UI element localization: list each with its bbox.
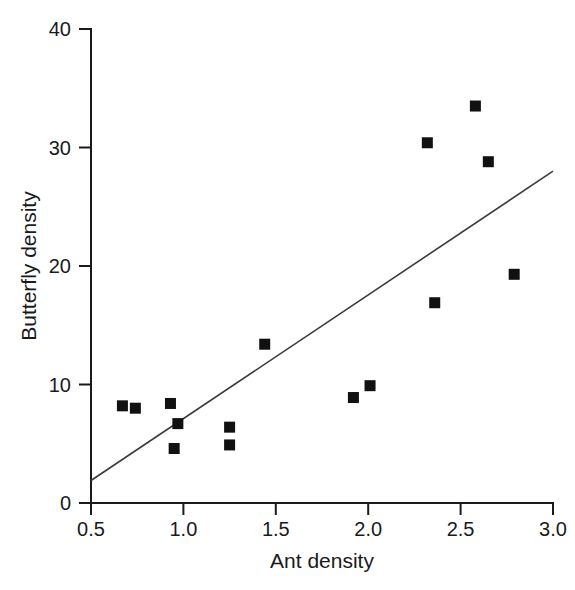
x-tick-label-2.5: 2.5 <box>447 518 475 540</box>
data-point-8 <box>348 392 359 403</box>
data-point-7 <box>259 339 270 350</box>
y-axis-title: Butterfly density <box>17 191 40 341</box>
tick-marks <box>79 29 553 515</box>
x-axis-tick-labels: 0.51.01.52.02.53.0 <box>77 518 567 540</box>
data-points <box>117 101 520 454</box>
plot-canvas: 0.51.01.52.02.53.0 010203040 Ant density… <box>0 0 575 590</box>
axis-spine <box>91 29 553 503</box>
data-point-14 <box>509 269 520 280</box>
data-point-11 <box>429 297 440 308</box>
regression-line <box>91 171 553 480</box>
data-point-12 <box>470 101 481 112</box>
data-point-4 <box>169 443 180 454</box>
trend-line <box>91 171 553 480</box>
data-point-13 <box>483 156 494 167</box>
x-tick-label-3.0: 3.0 <box>539 518 567 540</box>
x-tick-label-1.0: 1.0 <box>169 518 197 540</box>
data-point-2 <box>165 398 176 409</box>
scatter-plot-figure: 0.51.01.52.02.53.0 010203040 Ant density… <box>0 0 575 590</box>
y-tick-label-20: 20 <box>49 255 71 277</box>
y-tick-label-10: 10 <box>49 374 71 396</box>
data-point-1 <box>130 403 141 414</box>
y-axis-tick-labels: 010203040 <box>49 18 71 514</box>
x-tick-label-0.5: 0.5 <box>77 518 105 540</box>
data-point-9 <box>365 380 376 391</box>
data-point-0 <box>117 400 128 411</box>
y-tick-label-40: 40 <box>49 18 71 40</box>
data-point-6 <box>224 439 235 450</box>
data-point-5 <box>224 422 235 433</box>
data-point-10 <box>422 137 433 148</box>
x-tick-label-1.5: 1.5 <box>262 518 290 540</box>
x-axis-title: Ant density <box>270 549 374 572</box>
data-point-3 <box>172 418 183 429</box>
x-tick-label-2.0: 2.0 <box>354 518 382 540</box>
y-tick-label-30: 30 <box>49 137 71 159</box>
axes <box>91 29 553 503</box>
y-tick-label-0: 0 <box>60 492 71 514</box>
